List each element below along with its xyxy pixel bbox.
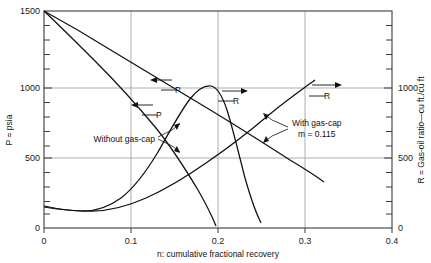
label-r-left: R (233, 96, 239, 106)
label-p-upper: P (175, 85, 181, 95)
curve-r-with-gas-cap (44, 80, 315, 211)
y-right-tick-500: 500 (398, 153, 413, 163)
y-left-axis-title: P = psia (4, 114, 14, 145)
right-axis-ticks (384, 26, 392, 215)
x-tick-0.3: 0.3 (299, 236, 312, 246)
x-axis-title: n: cumulative fractional recovery (157, 249, 280, 259)
chart-svg: 1500 1000 500 0 1000 500 0 0 0.1 0.2 0.3… (0, 0, 431, 263)
annotation-m-value: m = 0.115 (298, 129, 336, 139)
curve-r-without-gas-cap (44, 86, 261, 223)
left-axis-ticks (44, 26, 52, 215)
leader-without-gas-cap (158, 123, 180, 153)
curve-p-with-gas-cap (44, 11, 324, 182)
x-axis-ticks (44, 228, 392, 233)
label-r-right: R (324, 91, 330, 101)
annotation-without-gas-cap: Without gas-cap (94, 134, 156, 144)
x-tick-0.4: 0.4 (386, 236, 399, 246)
figure-container: 1500 1000 500 0 1000 500 0 0 0.1 0.2 0.3… (0, 0, 431, 263)
annotation-with-gas-cap: With gas-cap (292, 118, 342, 128)
y-left-tick-500: 500 (25, 153, 40, 163)
leader-with-gas-cap (263, 113, 288, 143)
y-left-tick-1000: 1000 (20, 83, 40, 93)
y-right-tick-0: 0 (398, 223, 403, 233)
x-tick-0.2: 0.2 (212, 236, 225, 246)
curve-p-without-gas-cap (44, 11, 216, 226)
y-right-axis-title: R = Gas-oil ratio—cu ft./cu ft (416, 76, 426, 184)
y-left-tick-1500: 1500 (20, 6, 40, 16)
label-p-lower: P (156, 110, 162, 120)
y-left-tick-0: 0 (35, 223, 40, 233)
x-tick-0: 0 (41, 236, 46, 246)
x-tick-0.1: 0.1 (125, 236, 138, 246)
